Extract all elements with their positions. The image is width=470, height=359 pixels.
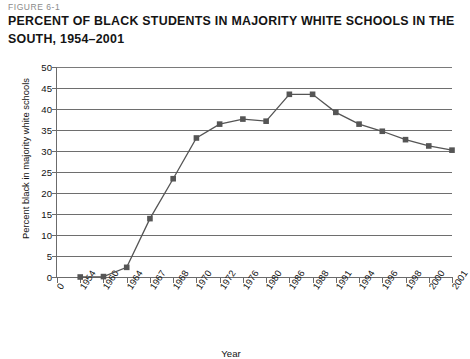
x-axis-title: Year bbox=[0, 348, 462, 359]
data-point-marker bbox=[217, 121, 223, 127]
data-point-marker bbox=[403, 137, 409, 143]
data-point-marker bbox=[426, 143, 432, 149]
data-point-marker bbox=[101, 274, 107, 280]
data-point-marker bbox=[379, 128, 385, 134]
data-series-line bbox=[0, 58, 462, 337]
data-point-marker bbox=[124, 265, 130, 271]
chart-plot-area: Percent black in majority white schools … bbox=[0, 58, 462, 337]
figure-number-label: FIGURE 6-1 bbox=[8, 2, 60, 12]
data-point-marker bbox=[356, 121, 362, 127]
data-point-marker bbox=[449, 147, 455, 153]
data-point-marker bbox=[333, 110, 339, 116]
figure-title: PERCENT OF BLACK STUDENTS IN MAJORITY WH… bbox=[8, 13, 456, 48]
data-point-marker bbox=[194, 135, 200, 141]
data-point-marker bbox=[147, 216, 153, 222]
data-point-marker bbox=[310, 92, 316, 98]
data-point-marker bbox=[263, 118, 269, 124]
data-point-marker bbox=[240, 116, 246, 122]
data-point-marker bbox=[170, 176, 176, 182]
data-point-marker bbox=[77, 274, 83, 280]
data-point-marker bbox=[287, 92, 293, 98]
